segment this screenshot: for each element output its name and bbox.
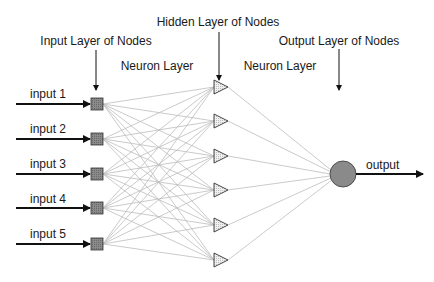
input-node (91, 168, 103, 180)
input-node (91, 238, 103, 250)
input-label: input 2 (30, 122, 66, 136)
input-4: input 4 (16, 192, 90, 208)
input-label: input 4 (30, 192, 66, 206)
hidden-node (214, 218, 228, 232)
input-label: input 3 (30, 157, 66, 171)
input-3: input 3 (16, 157, 90, 174)
input-hidden-connections (103, 87, 214, 260)
input-node (91, 133, 103, 145)
input-5: input 5 (16, 227, 90, 244)
hidden-node (214, 80, 228, 94)
input-node (91, 202, 103, 214)
output-node (330, 161, 356, 187)
hidden-nodes (214, 80, 228, 267)
input-nodes (91, 98, 103, 250)
input-layer-label: Input Layer of Nodes (40, 34, 151, 48)
hidden-output-connections (228, 87, 332, 260)
output-label: output (366, 158, 400, 172)
hidden-node (214, 149, 228, 163)
neuron-layer-left-label: Neuron Layer (121, 59, 194, 73)
neuron-layer-right-label: Neuron Layer (244, 59, 317, 73)
hidden-layer-label: Hidden Layer of Nodes (157, 15, 280, 29)
input-node (91, 98, 103, 110)
input-label: input 1 (30, 87, 66, 101)
neural-network-diagram: Hidden Layer of Nodes Input Layer of Nod… (0, 0, 434, 282)
input-2: input 2 (16, 122, 90, 139)
hidden-node (214, 114, 228, 128)
input-1: input 1 (16, 87, 90, 104)
hidden-node (214, 183, 228, 197)
input-label: input 5 (30, 227, 66, 241)
output-layer-label: Output Layer of Nodes (279, 34, 400, 48)
hidden-node (214, 253, 228, 267)
